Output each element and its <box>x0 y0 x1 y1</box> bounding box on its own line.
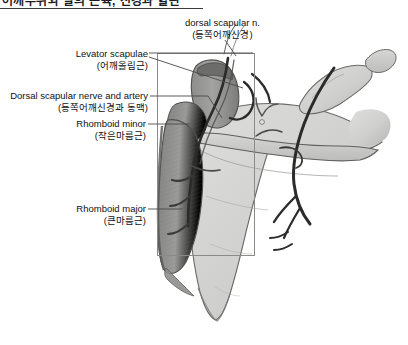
anatomy-figure: 어깨부위와 팔의 근육, 신경과 혈관 <box>0 0 408 345</box>
label-dorsal-scapular-nerve: dorsal scapular n. (등쪽어깨신경) <box>185 17 260 40</box>
label-rhomboid-major-en: Rhomboid major <box>0 203 146 215</box>
label-dorsal-scapular-nerve-ko: (등쪽어깨신경) <box>185 29 260 41</box>
label-rhomboid-minor-ko: (작은마름근) <box>0 130 146 142</box>
label-levator-scapulae-en: Levator scapulae <box>0 48 148 60</box>
region-highlight-rectangle[interactable] <box>157 53 255 256</box>
label-rhomboid-major: Rhomboid major (큰마름근) <box>0 203 146 226</box>
label-levator-scapulae-ko: (어깨올림근) <box>0 60 148 72</box>
label-dorsal-scapular-nerve-and-artery-ko: (등쪽어깨신경과 동맥) <box>0 102 148 114</box>
label-dorsal-scapular-nerve-and-artery-en: Dorsal scapular nerve and artery <box>0 90 148 102</box>
label-levator-scapulae: Levator scapulae (어깨올림근) <box>0 48 148 71</box>
label-rhomboid-major-ko: (큰마름근) <box>0 215 146 227</box>
label-dorsal-scapular-nerve-and-artery: Dorsal scapular nerve and artery (등쪽어깨신경… <box>0 90 148 113</box>
label-rhomboid-minor: Rhomboid minor (작은마름근) <box>0 118 146 141</box>
label-rhomboid-minor-en: Rhomboid minor <box>0 118 146 130</box>
label-dorsal-scapular-nerve-en: dorsal scapular n. <box>185 17 260 29</box>
